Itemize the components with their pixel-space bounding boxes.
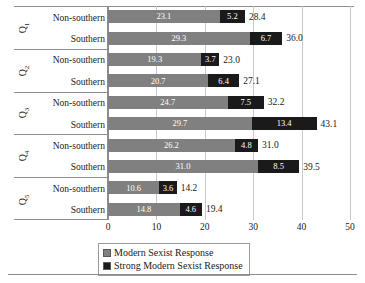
bar-row: 19.33.723.0	[108, 53, 219, 66]
bar-total-label: 19.4	[202, 203, 223, 216]
bar-segment-strong: 6.4	[208, 74, 239, 87]
bar-segment-modern: 10.6	[108, 181, 159, 194]
group-axis-label-subscript: 4	[23, 151, 31, 155]
group-row-Q5: Q5Non-southernSouthern	[14, 178, 108, 221]
bar-value-label-modern: 23.1	[156, 12, 171, 21]
bar-segment-strong: 13.4	[252, 117, 317, 130]
bar-row: 31.08.539.5	[108, 160, 299, 173]
bar-total-label: 23.0	[219, 53, 240, 66]
group-axis-label-text: Q4	[17, 151, 31, 162]
bar-segment-strong: 7.5	[228, 96, 264, 109]
bar-total-label: 28.4	[245, 10, 266, 23]
category-label: Non-southern	[35, 178, 105, 199]
plot-area: Q1Non-southernSouthernQ2Non-southernSout…	[0, 6, 365, 220]
bar-value-label-strong: 5.2	[227, 12, 238, 21]
bar-segment-modern: 19.3	[108, 53, 201, 66]
legend-swatch-icon	[103, 262, 111, 270]
x-tick-label-50: 50	[337, 222, 363, 232]
stacked-bar-chart-figure: Q1Non-southernSouthernQ2Non-southernSout…	[0, 0, 365, 283]
group-axis-label-subscript: 1	[23, 23, 31, 27]
group-axis-label-text: Q2	[17, 65, 31, 76]
bar-value-label-strong: 6.7	[261, 34, 272, 43]
figure-bottom-rule	[8, 274, 357, 275]
bar-segment-strong: 3.6	[159, 181, 176, 194]
category-label: Non-southern	[35, 50, 105, 71]
bar-value-label-modern: 24.7	[160, 98, 175, 107]
bar-value-label-strong: 3.6	[163, 184, 174, 193]
bar-segment-strong: 8.5	[258, 160, 299, 173]
category-label: Non-southern	[35, 93, 105, 114]
bar-value-label-modern: 14.8	[136, 205, 151, 214]
bar-segment-modern: 29.3	[108, 32, 250, 45]
legend-item[interactable]: Modern Sexist Response	[103, 246, 243, 259]
bar-value-label-strong: 8.5	[273, 162, 284, 171]
group-axis-label: Q3	[14, 93, 34, 135]
category-label: Southern	[35, 71, 105, 92]
bar-value-label-strong: 7.5	[240, 98, 251, 107]
bar-value-label-strong: 13.4	[277, 119, 292, 128]
category-label-table: Q1Non-southernSouthernQ2Non-southernSout…	[14, 6, 108, 220]
x-tick-label-20: 20	[192, 222, 218, 232]
legend-item-label: Modern Sexist Response	[114, 246, 213, 259]
gridline-50	[350, 6, 351, 220]
bar-value-label-modern: 29.7	[172, 119, 187, 128]
group-axis-label-text: Q5	[17, 194, 31, 205]
bar-value-label-strong: 4.8	[241, 141, 252, 150]
legend-item[interactable]: Strong Modern Sexist Response	[103, 259, 243, 272]
group-axis-label-subscript: 2	[23, 65, 31, 69]
bar-total-label: 39.5	[299, 160, 320, 173]
group-axis-label: Q4	[14, 135, 34, 177]
bar-value-label-strong: 6.4	[218, 77, 229, 86]
group-axis-label: Q1	[14, 7, 34, 49]
bar-segment-strong: 4.6	[180, 203, 202, 216]
bar-total-label: 27.1	[239, 74, 260, 87]
group-row-Q3: Q3Non-southernSouthern	[14, 93, 108, 136]
category-label: Southern	[35, 28, 105, 49]
bar-value-label-modern: 10.6	[126, 184, 141, 193]
bar-segment-modern: 20.7	[108, 74, 208, 87]
bar-segment-strong: 3.7	[201, 53, 219, 66]
x-tick-label-30: 30	[240, 222, 266, 232]
bar-total-label: 14.2	[177, 181, 198, 194]
bar-segment-modern: 23.1	[108, 10, 220, 23]
bar-value-label-strong: 4.6	[185, 205, 196, 214]
bar-segment-modern: 31.0	[108, 160, 258, 173]
bar-value-label-modern: 19.3	[147, 55, 162, 64]
bar-value-label-modern: 20.7	[151, 77, 166, 86]
group-row-Q1: Q1Non-southernSouthern	[14, 7, 108, 50]
category-label: Non-southern	[35, 135, 105, 156]
bar-row: 10.63.614.2	[108, 181, 177, 194]
group-axis-label: Q5	[14, 178, 34, 221]
group-axis-label-text: Q3	[17, 108, 31, 119]
bar-value-label-modern: 31.0	[176, 162, 191, 171]
chart-legend: Modern Sexist ResponseStrong Modern Sexi…	[98, 243, 250, 276]
bar-total-label: 31.0	[258, 139, 279, 152]
category-label: Non-southern	[35, 7, 105, 28]
bar-row: 14.84.619.4	[108, 203, 202, 216]
bar-value-label-modern: 26.2	[164, 141, 179, 150]
group-axis-label-subscript: 5	[23, 194, 31, 198]
category-label: Southern	[35, 114, 105, 135]
bar-row: 23.15.228.4	[108, 10, 245, 23]
x-tick-label-10: 10	[143, 222, 169, 232]
bar-total-label: 32.2	[264, 96, 285, 109]
bar-segment-modern: 26.2	[108, 139, 235, 152]
bar-row: 29.36.736.0	[108, 32, 282, 45]
bar-segment-strong: 6.7	[250, 32, 282, 45]
category-label: Southern	[35, 157, 105, 178]
bar-segment-strong: 4.8	[235, 139, 258, 152]
group-axis-label-subscript: 3	[23, 108, 31, 112]
group-row-Q4: Q4Non-southernSouthern	[14, 135, 108, 178]
group-axis-label: Q2	[14, 50, 34, 92]
bar-segment-modern: 24.7	[108, 96, 228, 109]
group-axis-label-text: Q1	[17, 23, 31, 34]
x-tick-label-0: 0	[95, 222, 121, 232]
legend-item-label: Strong Modern Sexist Response	[114, 259, 243, 272]
bar-row: 20.76.427.1	[108, 74, 239, 87]
bar-row: 26.24.831.0	[108, 139, 258, 152]
bar-total-label: 36.0	[282, 32, 303, 45]
x-tick-label-40: 40	[289, 222, 315, 232]
bar-value-label-modern: 29.3	[171, 34, 186, 43]
bar-segment-strong: 5.2	[220, 10, 245, 23]
bar-segment-modern: 14.8	[108, 203, 180, 216]
